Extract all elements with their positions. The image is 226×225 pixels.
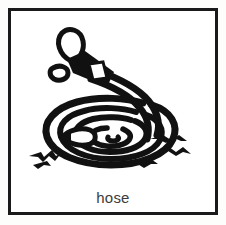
- hose-illustration: [11, 11, 215, 212]
- nozzle-collar: [89, 62, 107, 80]
- caption-text: hose: [11, 189, 215, 207]
- water-droplet: [50, 66, 68, 80]
- hose-end-cap: [61, 129, 95, 145]
- card-border: hose: [8, 8, 218, 215]
- picture-word-card: hose: [0, 0, 226, 225]
